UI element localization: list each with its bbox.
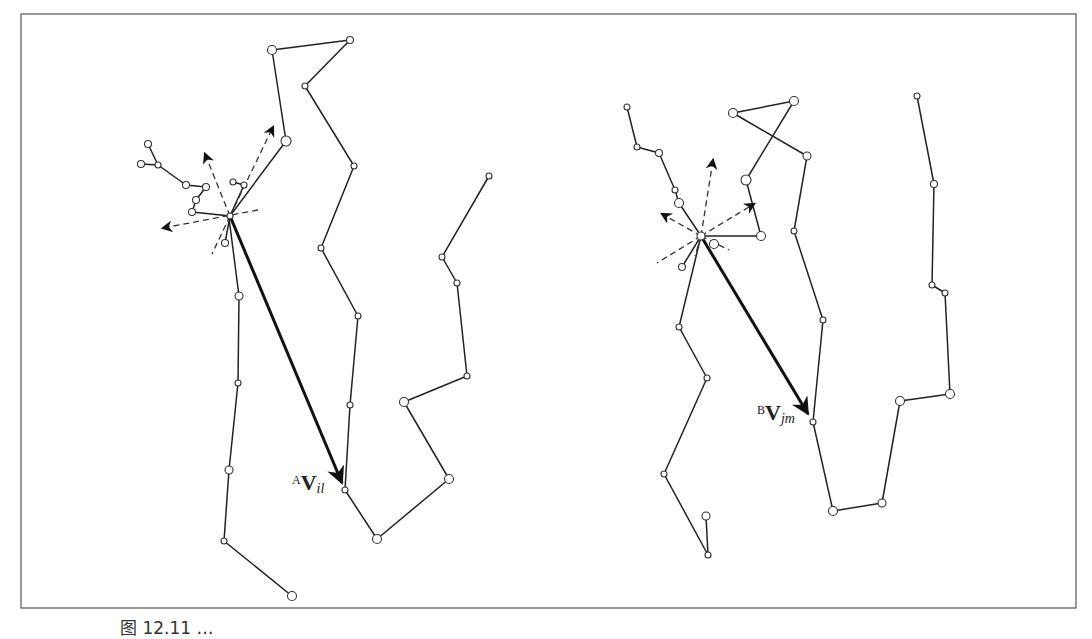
chain-right-b	[664, 236, 708, 555]
left-nodes	[138, 37, 493, 601]
chain-left-b	[230, 40, 489, 539]
dashed-arrow-left	[163, 210, 258, 228]
chain-left-a	[224, 218, 292, 596]
vector-label-a-il: AVil	[292, 470, 324, 496]
dashed-arrow-left-right	[662, 214, 701, 236]
left-panel: AVil	[138, 37, 493, 601]
dashed-arrow-right	[701, 204, 754, 236]
dashed-arrow-up-right	[701, 160, 713, 236]
vector-label-b-jm: BVjm	[757, 400, 795, 426]
dashed-line-downleft	[657, 236, 701, 263]
chain-left-branch-2	[158, 165, 230, 216]
right-nodes	[624, 93, 955, 558]
figure-caption: 图 12.11 …	[120, 614, 213, 639]
dashed-line-down	[212, 216, 230, 254]
chain-right-c	[682, 236, 701, 267]
dashed-arrow-upright	[230, 127, 273, 216]
vector-b-jm	[701, 236, 808, 414]
right-panel: BVjm	[624, 93, 955, 558]
